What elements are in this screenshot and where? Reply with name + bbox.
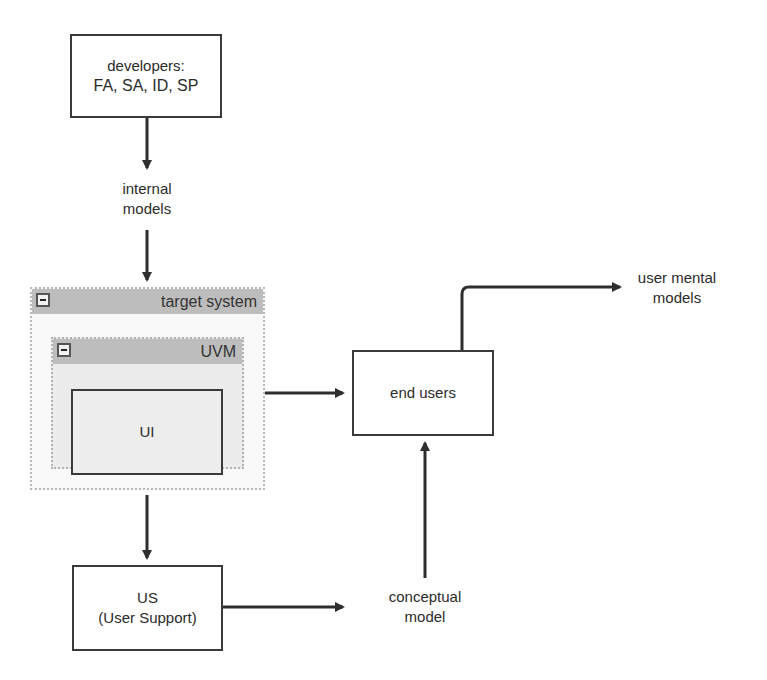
arrow-end-users-to-user-mental-models — [462, 287, 620, 350]
target-system-title: target system — [161, 293, 257, 311]
internal-models-label: internal models — [97, 179, 197, 219]
uvm-header: UVM — [53, 339, 242, 364]
internal-models-line2: models — [97, 199, 197, 219]
user-mental-models-line1: user mental — [622, 268, 732, 288]
ui-label: UI — [140, 422, 155, 442]
internal-models-line1: internal — [97, 179, 197, 199]
end-users-label: end users — [390, 383, 456, 403]
collapse-toggle-icon[interactable] — [57, 343, 71, 357]
user-mental-models-label: user mental models — [622, 268, 732, 308]
user-support-node: US (User Support) — [72, 565, 223, 651]
conceptual-model-label: conceptual model — [370, 587, 480, 627]
collapse-toggle-icon[interactable] — [36, 293, 50, 307]
user-support-full: (User Support) — [98, 608, 196, 628]
developers-roles: FA, SA, ID, SP — [94, 76, 199, 96]
conceptual-model-line1: conceptual — [370, 587, 480, 607]
target-system-header: target system — [32, 289, 263, 314]
ui-node: UI — [71, 389, 223, 475]
uvm-container: UVM UI — [51, 337, 244, 469]
developers-node: developers: FA, SA, ID, SP — [70, 34, 222, 118]
conceptual-model-line2: model — [370, 607, 480, 627]
target-system-container: target system UVM UI — [30, 287, 265, 490]
user-support-abbrev: US — [137, 588, 158, 608]
uvm-title: UVM — [200, 343, 236, 361]
end-users-node: end users — [352, 350, 494, 436]
developers-label: developers: — [107, 56, 185, 76]
user-mental-models-line2: models — [622, 288, 732, 308]
